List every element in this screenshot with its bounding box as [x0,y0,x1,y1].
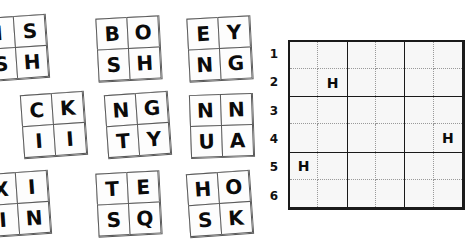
grid-cell-r6c1[interactable] [290,180,318,207]
letter-tile[interactable]: TESQ [95,170,162,237]
tile-letter-cell: I [53,122,87,156]
grid-cell-r1c1[interactable] [290,42,318,69]
letter-tile[interactable]: NGTY [104,91,172,159]
grid-cell-r1c2[interactable] [318,42,346,69]
grid-cell-r1c5[interactable] [405,42,433,69]
row-label-3: 3 [264,97,284,125]
grid-block [347,96,406,152]
tile-letter-cell: O [126,15,160,49]
grid-cell-r6c2[interactable] [318,180,346,207]
letter-tile[interactable]: XIIN [0,170,52,238]
grid-cell-r4c2[interactable] [318,124,346,151]
tile-letter-cell: N [189,94,222,127]
tile-letter-cell: H [15,45,49,79]
grid-cell-r5c6[interactable] [434,153,462,180]
grid-cell-r3c6[interactable] [434,97,462,124]
tile-letter-cell: T [106,124,140,158]
grid-cell-r6c4[interactable] [376,180,404,207]
tile-letter-cell: S [13,14,47,48]
tile-letter-cell: Y [137,122,171,156]
grid-cell-r2c6[interactable] [434,69,462,96]
grid-cell-r1c6[interactable] [434,42,462,69]
grid-block: H [404,96,463,152]
grid-cell-r4c6[interactable]: H [434,124,462,151]
grid-cell-r6c3[interactable] [348,180,376,207]
answer-grid[interactable]: HHH [288,40,465,210]
grid-cell-r3c4[interactable] [376,97,404,124]
grid-cell-r2c2[interactable]: H [318,69,346,96]
tile-letter-cell: I [22,124,56,158]
row-label-4: 4 [264,125,284,153]
letter-tile[interactable]: HOSK [186,170,254,238]
row-label-2: 2 [264,68,284,96]
tile-letter-cell: Q [128,201,162,235]
row-label-6: 6 [264,182,284,210]
tile-letter-cell: S [188,203,222,237]
tile-letter-cell: E [186,17,220,51]
tile-letter-cell: N [17,201,51,235]
grid-cell-r4c3[interactable] [348,124,376,151]
grid-cell-r4c1[interactable] [290,124,318,151]
tile-letter-cell: Y [217,15,251,49]
grid-cell-r4c5[interactable] [405,124,433,151]
grid-cell-r1c4[interactable] [376,42,404,69]
letter-tile[interactable]: NNUA [189,93,255,159]
grid-block: H [289,152,348,208]
letter-tile[interactable]: CKII [20,91,88,159]
grid-cell-r2c5[interactable] [405,69,433,96]
row-label-1: 1 [264,40,284,68]
tile-letter-cell: S [97,48,131,82]
tile-letter-cell: O [217,170,251,204]
tile-letter-cell: N [104,93,138,127]
grid-cell-r1c3[interactable] [348,42,376,69]
grid-cell-r2c1[interactable] [290,69,318,96]
tile-letter-cell: H [186,172,220,206]
tile-letter-cell: G [219,46,253,80]
tile-letter-cell: N [220,93,253,126]
tile-letter-cell: K [51,91,85,125]
grid-block: H [289,41,348,97]
tile-letter-cell: C [20,93,54,127]
tile-tray: ISSHBOSHEYNGCKIINGTYNNUAXIINTESQHOSK [0,0,262,245]
grid-cell-r5c1[interactable]: H [290,153,318,180]
grid-cell-r4c4[interactable] [376,124,404,151]
letter-tile[interactable]: ISSH [0,14,50,82]
tile-letter-cell: B [95,17,129,51]
grid-cell-r5c2[interactable] [318,153,346,180]
grid-block [347,152,406,208]
grid-block [404,41,463,97]
tile-letter-cell: N [188,48,222,82]
tile-letter-cell: E [126,170,160,204]
puzzle-area: 123456 HHH [262,0,474,245]
grid-cell-r3c5[interactable] [405,97,433,124]
tile-letter-cell: G [135,91,169,125]
row-label-5: 5 [264,153,284,181]
grid-cell-r5c5[interactable] [405,153,433,180]
letter-tile[interactable]: BOSH [95,15,162,82]
grid-cell-r3c3[interactable] [348,97,376,124]
tile-letter-cell: U [190,125,223,158]
tile-letter-cell: S [97,203,131,237]
grid-cell-r3c2[interactable] [318,97,346,124]
grid-block [404,152,463,208]
tile-letter-cell: K [219,201,253,235]
tile-letter-cell: I [15,170,49,204]
grid-block [289,96,348,152]
grid-cell-r2c4[interactable] [376,69,404,96]
tile-letter-cell: H [128,46,162,80]
grid-cell-r2c3[interactable] [348,69,376,96]
grid-cell-r5c3[interactable] [348,153,376,180]
grid-cell-r5c4[interactable] [376,153,404,180]
letter-tile[interactable]: EYNG [186,15,253,82]
grid-cell-r3c1[interactable] [290,97,318,124]
row-label-column: 123456 [264,40,284,210]
grid-cell-r6c5[interactable] [405,180,433,207]
grid-cell-r6c6[interactable] [434,180,462,207]
tile-letter-cell: T [95,172,129,206]
grid-block [347,41,406,97]
tile-letter-cell: A [221,124,254,157]
